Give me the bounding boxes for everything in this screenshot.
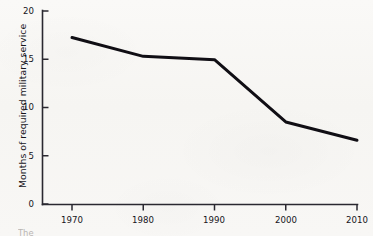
chart-figure: Months of required military service 20 1… [0, 0, 373, 236]
x-tick-label-1990: 1990 [192, 215, 236, 225]
y-tick-label-20: 20 [12, 6, 34, 16]
x-axis-ticks [72, 205, 357, 211]
data-series-line [72, 38, 357, 141]
y-tick-label-0: 0 [12, 199, 34, 209]
x-tick-label-2000: 2000 [264, 215, 308, 225]
partial-caption-text: The [18, 228, 358, 236]
line-chart-plot [0, 0, 373, 236]
x-tick-label-1980: 1980 [121, 215, 165, 225]
x-tick-label-2010: 2010 [335, 215, 373, 225]
y-tick-label-5: 5 [12, 151, 34, 161]
x-tick-label-1970: 1970 [50, 215, 94, 225]
y-tick-label-15: 15 [12, 54, 34, 64]
y-tick-label-10: 10 [12, 102, 34, 112]
y-axis-ticks [43, 11, 49, 204]
